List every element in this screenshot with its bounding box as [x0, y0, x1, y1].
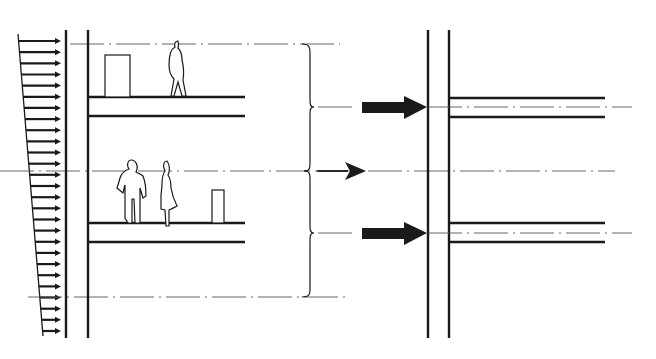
arrowhead-icon [55, 105, 61, 111]
model-lower-floor-slab [449, 223, 605, 242]
arrowhead-icon [55, 328, 61, 334]
resultant-arrow-lower-icon [362, 222, 427, 245]
arrowhead-icon [55, 72, 61, 78]
arrowhead-icon [55, 49, 61, 55]
arrowhead-icon [55, 283, 61, 289]
wind-arrow-middle-icon [317, 162, 366, 180]
arrowhead-icon [55, 150, 61, 156]
arrowhead-icon [55, 161, 61, 167]
arrowhead-icon [55, 317, 61, 323]
arrowhead-icon [55, 250, 61, 256]
arrowhead-icon [55, 194, 61, 200]
left-section [0, 30, 615, 338]
wind-load-diagram: Wind load on building facade transferred… [0, 0, 656, 359]
standing-man-icon [117, 160, 146, 223]
arrowhead-icon [55, 116, 61, 122]
arrowhead-icon [55, 83, 61, 89]
arrowhead-icon [55, 261, 61, 267]
arrowhead-icon [55, 138, 61, 144]
arrowhead-icon [55, 183, 61, 189]
arrowhead-icon [55, 127, 61, 133]
arrowhead-icon [55, 295, 61, 301]
arrowhead-icon [55, 306, 61, 312]
arrowhead-icon [55, 205, 61, 211]
resultant-arrow-upper-icon [362, 96, 427, 119]
door-lower-icon [212, 190, 224, 223]
arrowhead-icon [55, 60, 61, 66]
arrowhead-icon [55, 272, 61, 278]
upper-brace-icon [302, 44, 314, 171]
model-upper-floor-slab [449, 98, 605, 117]
door-upper-icon [105, 55, 130, 97]
arrowhead-icon [55, 239, 61, 245]
arrowhead-icon [55, 94, 61, 100]
right-section [428, 30, 632, 338]
lower-brace-icon [302, 171, 314, 297]
arrowhead-icon [55, 38, 61, 44]
walking-person-icon [169, 41, 189, 97]
arrowhead-icon [55, 217, 61, 223]
upper-floor-slab [88, 97, 245, 116]
arrowhead-icon [55, 228, 61, 234]
arrowhead-icon [55, 172, 61, 178]
